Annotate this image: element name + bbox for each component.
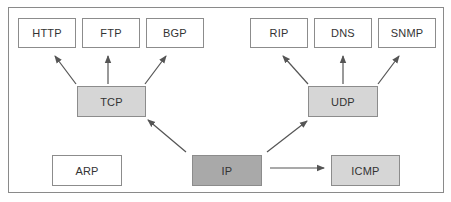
node-ftp: FTP <box>82 18 140 48</box>
node-ftp-label: FTP <box>100 27 121 39</box>
node-dns-label: DNS <box>331 27 355 39</box>
node-rip: RIP <box>250 18 308 48</box>
node-udp-label: UDP <box>331 96 355 108</box>
node-udp: UDP <box>308 86 378 117</box>
node-bgp: BGP <box>146 18 204 48</box>
node-icmp: ICMP <box>331 155 400 186</box>
node-snmp: SNMP <box>378 18 436 48</box>
node-tcp-label: TCP <box>100 96 123 108</box>
node-arp-label: ARP <box>75 165 98 177</box>
node-dns: DNS <box>314 18 372 48</box>
node-icmp-label: ICMP <box>351 165 379 177</box>
node-tcp: TCP <box>77 86 146 117</box>
node-rip-label: RIP <box>270 27 289 39</box>
node-arp: ARP <box>52 155 122 186</box>
node-bgp-label: BGP <box>163 27 187 39</box>
node-http-label: HTTP <box>32 27 62 39</box>
node-ip-label: IP <box>222 165 233 177</box>
node-ip: IP <box>192 155 262 186</box>
node-http: HTTP <box>18 18 76 48</box>
node-snmp-label: SNMP <box>391 27 424 39</box>
